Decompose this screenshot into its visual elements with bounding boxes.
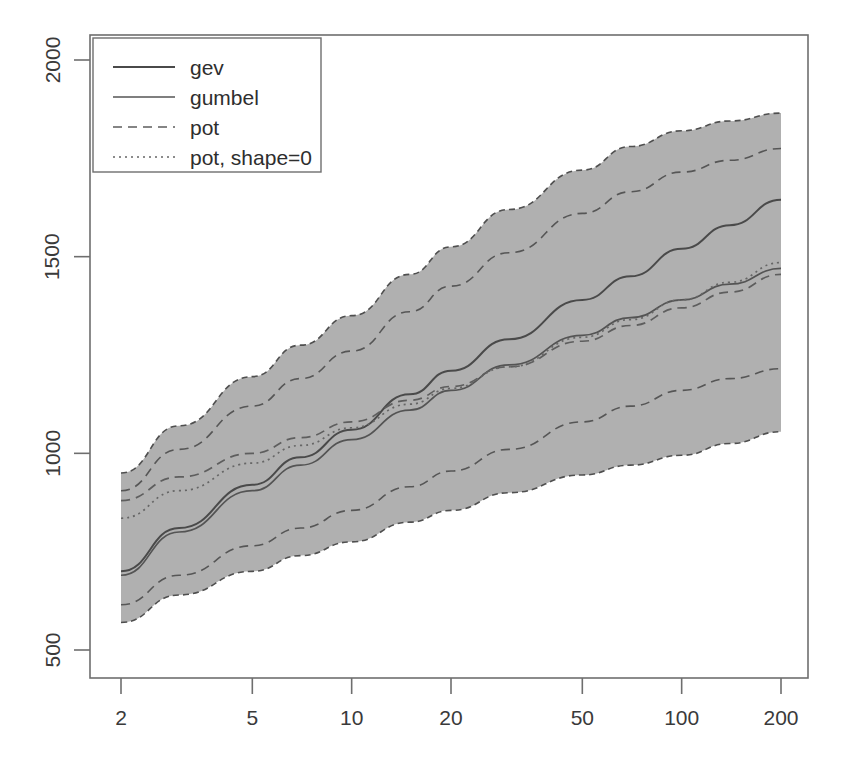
legend-label-gumbel: gumbel: [190, 86, 259, 109]
confidence-band-fill: [121, 113, 781, 622]
y-tick-label-1500: 1500: [40, 233, 63, 280]
x-tick-label-20: 20: [439, 706, 462, 729]
x-tick-label-5: 5: [246, 706, 258, 729]
legend[interactable]: gevgumbelpotpot, shape=0: [93, 38, 321, 172]
x-tick-label-100: 100: [664, 706, 699, 729]
legend-label-pot: pot: [190, 116, 219, 139]
y-tick-label-1000: 1000: [41, 430, 64, 477]
legend-label-gev: gev: [190, 56, 224, 79]
x-tick-label-50: 50: [571, 706, 594, 729]
x-tick-label-2: 2: [115, 706, 127, 729]
y-tick-label-2000: 2000: [41, 37, 64, 84]
return-level-plot: 25102050100200500100015002000 gevgumbelp…: [0, 0, 853, 783]
y-tick-label-500: 500: [41, 632, 64, 667]
x-tick-label-10: 10: [340, 706, 363, 729]
legend-label-pot-shape-0: pot, shape=0: [190, 146, 312, 169]
confidence-band: [121, 113, 781, 622]
chart-canvas: 25102050100200500100015002000 gevgumbelp…: [0, 0, 853, 783]
x-tick-label-200: 200: [763, 706, 798, 729]
